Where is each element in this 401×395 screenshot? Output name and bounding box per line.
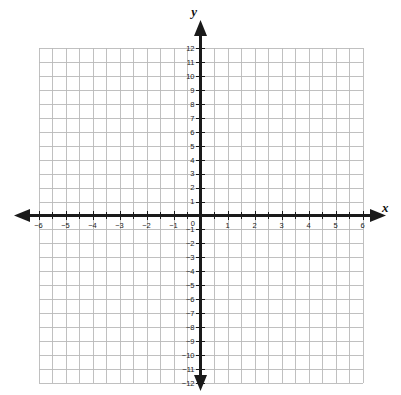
coordinate-plane-figure: −6−5−4−3−2−1123456 121110987654321−1−2−3…: [0, 0, 401, 395]
y-tick-label: 11: [187, 58, 195, 67]
x-tick-label: −5: [61, 221, 70, 230]
y-tick-label: 3: [190, 169, 194, 178]
y-tick-label: 8: [190, 100, 194, 109]
x-axis-label: x: [381, 200, 389, 215]
y-tick-label: −4: [186, 267, 195, 276]
y-tick-label: −5: [186, 281, 195, 290]
y-tick-label: 4: [190, 156, 194, 165]
y-tick-label: −10: [182, 351, 195, 360]
x-tick-label: −3: [115, 221, 124, 230]
x-tick-label: 6: [360, 221, 364, 230]
x-tick-label: 4: [306, 221, 310, 230]
y-tick-label: 10: [186, 72, 194, 81]
x-tick-label: 5: [333, 221, 337, 230]
x-tick-label: −6: [34, 221, 43, 230]
y-tick-label: −3: [186, 253, 195, 262]
y-tick-label: −12: [182, 379, 195, 388]
x-tick-label: 2: [252, 221, 256, 230]
y-tick-label: 1: [190, 197, 194, 206]
x-tick-label: 1: [225, 221, 229, 230]
y-tick-label: −9: [186, 337, 195, 346]
y-tick-label: −2: [186, 239, 195, 248]
y-axis-label: y: [189, 4, 197, 19]
x-tick-label: −2: [142, 221, 151, 230]
y-tick-label: 5: [190, 142, 194, 151]
y-tick-label: 2: [190, 183, 194, 192]
y-tick-label: −11: [182, 365, 194, 374]
y-tick-label: −7: [186, 309, 195, 318]
x-tick-label: 3: [279, 221, 283, 230]
y-tick-label: −6: [186, 295, 195, 304]
y-tick-label: 6: [190, 128, 194, 137]
y-tick-label: 9: [190, 86, 194, 95]
coordinate-plane-svg: −6−5−4−3−2−1123456 121110987654321−1−2−3…: [0, 0, 401, 395]
y-tick-label: −8: [186, 323, 195, 332]
x-tick-label: −1: [169, 221, 178, 230]
x-tick-label: −4: [88, 221, 97, 230]
y-tick-label: 7: [190, 114, 194, 123]
y-tick-label: 12: [186, 44, 194, 53]
origin-label: 0: [191, 219, 195, 228]
